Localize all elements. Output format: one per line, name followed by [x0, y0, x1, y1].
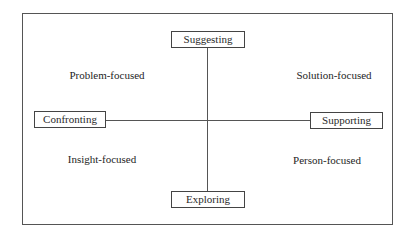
- quadrant-label-top-right: Solution-focused: [296, 68, 371, 82]
- horizontal-axis-line: [106, 120, 310, 121]
- quadrant-label-bottom-right: Person-focused: [293, 153, 361, 167]
- pole-supporting: Supporting: [310, 112, 383, 129]
- quadrant-label-top-left: Problem-focused: [69, 68, 144, 82]
- pole-suggesting: Suggesting: [171, 31, 245, 48]
- pole-exploring: Exploring: [171, 191, 245, 208]
- quadrant-label-bottom-left: Insight-focused: [68, 152, 136, 166]
- pole-confronting: Confronting: [34, 111, 106, 128]
